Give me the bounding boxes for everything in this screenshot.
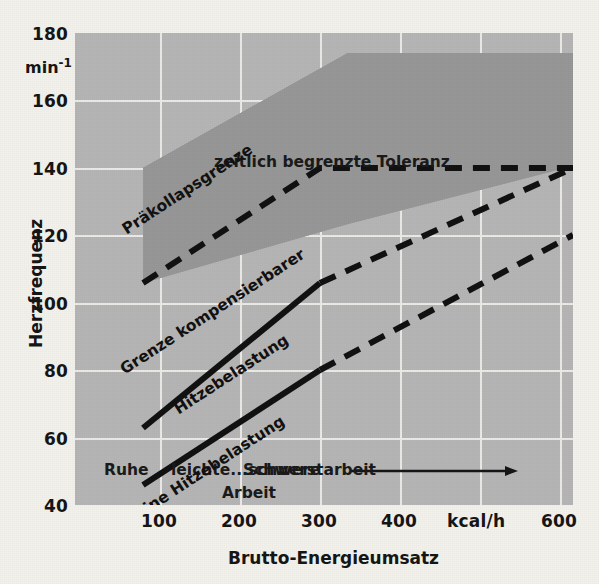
y-axis-unit-base: min [25, 58, 59, 77]
y-axis-unit: min-1 [25, 56, 72, 77]
curve-grenze-kompensierbar-dashed [320, 168, 573, 283]
y-axis-title: Herzfrequenz [26, 219, 46, 348]
ytick-60: 60 [18, 429, 68, 449]
xtick-100: 100 [141, 511, 177, 531]
xtick-300: 300 [301, 511, 337, 531]
ytick-160: 160 [18, 91, 68, 111]
ytick-40: 40 [18, 496, 68, 516]
ytick-180: 180 [18, 24, 68, 44]
xtick-400: 400 [381, 511, 417, 531]
xtick-200: 200 [221, 511, 257, 531]
annotation-schwerstarbeit: Schwerstarbeit [243, 461, 376, 479]
xtick-600: 600 [541, 511, 577, 531]
ytick-140: 140 [18, 159, 68, 179]
curve-layer [75, 33, 573, 505]
x-axis-title: Brutto-Energieumsatz [228, 548, 439, 568]
annotation-arbeit: Arbeit [222, 484, 276, 502]
plot-area: Präkollapsgrenze Grenze kompensierbarer … [75, 33, 573, 505]
xtick-kcal-per-h: kcal/h [447, 511, 505, 531]
curve-keine-hitzebelastung-dashed [320, 235, 573, 370]
chart-figure: 180 160 140 120 100 80 60 40 min-1 Herzf… [0, 0, 599, 584]
y-axis-unit-exponent: -1 [59, 56, 72, 70]
schwerstarbeit-arrow-head [505, 466, 518, 476]
annotation-ruhe: Ruhe [104, 461, 149, 479]
ytick-80: 80 [18, 361, 68, 381]
